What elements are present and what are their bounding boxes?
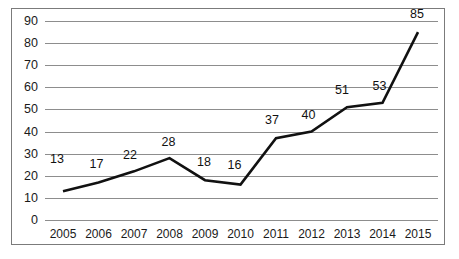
y-axis-tick-label: 30 [24,147,38,160]
x-axis-tick-label: 2013 [334,228,361,240]
x-axis-tick-label: 2009 [192,228,219,240]
plot-area: 0102030405060708090 20052006200720082009… [45,21,438,220]
data-point-label: 18 [197,156,211,169]
data-point-label: 17 [90,158,104,171]
x-axis-tick-label: 2006 [85,228,112,240]
x-axis-line [45,220,438,221]
x-axis-tick-label: 2011 [263,228,289,240]
x-axis-tick-label: 2010 [227,228,254,240]
x-axis-tick-label: 2005 [50,228,77,240]
x-axis-tick-label: 2007 [121,228,148,240]
data-point-label: 16 [228,158,242,171]
data-point-label: 40 [302,108,316,121]
data-point-label: 51 [335,84,349,97]
data-point-label: 22 [123,149,137,162]
line-chart: 0102030405060708090 20052006200720082009… [0,0,459,259]
y-axis-tick-label: 60 [24,81,38,94]
y-axis-tick-label: 80 [24,37,38,50]
x-axis-tick-label: 2015 [405,228,432,240]
data-point-label: 37 [265,114,279,127]
x-axis-tick-label: 2014 [369,228,396,240]
x-axis-tick-label: 2012 [298,228,325,240]
y-axis-tick-label: 0 [31,214,38,227]
data-point-label: 28 [162,136,176,149]
data-point-label: 85 [410,8,424,21]
data-point-label: 13 [50,153,64,166]
y-axis-tick-label: 50 [24,103,38,116]
y-axis-tick-label: 20 [24,170,38,183]
y-axis-tick-label: 40 [24,125,38,138]
data-point-label: 53 [373,79,387,92]
y-axis-tick-label: 70 [24,59,38,72]
y-axis-tick-label: 90 [24,15,38,28]
y-axis-tick-label: 10 [24,192,38,205]
x-axis-tick-label: 2008 [156,228,183,240]
series-line [45,21,438,220]
